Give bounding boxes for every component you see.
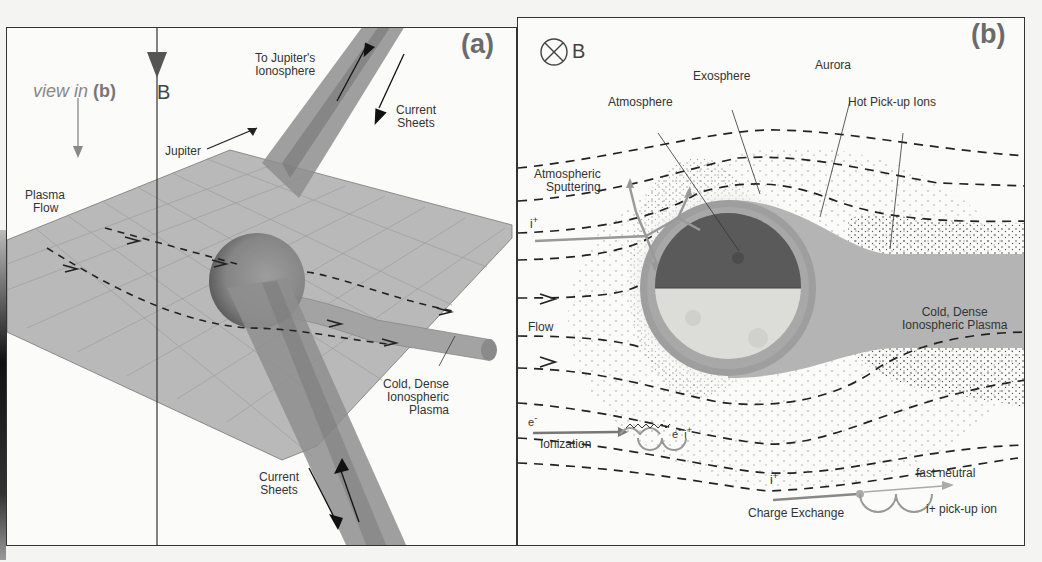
view-in-ref: (b) [93,81,116,101]
label-aurora: Aurora [815,59,851,72]
view-in-label: view in (b) [33,81,116,102]
label-to-ionosphere: To Jupiter's Ionosphere [255,52,315,78]
label-plasma-flow: Plasma Flow [25,189,65,215]
pickup-gyration [860,494,932,512]
b-field-label-b: B [572,40,585,63]
label-ionization: Ionization [540,438,591,451]
label-ionization-products: e- i+ [672,424,692,441]
label-fast-neutral: fast neutral [916,467,975,480]
label-flow: Flow [528,321,553,334]
label-cold-dense-plasma-a: Cold, Dense Ionospheric Plasma [383,378,449,417]
label-line: Ionospheric Plasma [902,319,1007,332]
ion-charge: + [533,215,538,225]
label-atmosphere: Atmosphere [608,96,673,109]
label-current-sheets-bottom: Current Sheets [259,471,299,497]
label-electron: e- [528,412,537,429]
electron-charge: - [678,425,681,435]
label-line: Flow [25,202,65,215]
label-line: Sheets [396,117,436,130]
panel-b-top-view: (b) B Exosphere Aurora Atmosphere Hot Pi… [517,17,1025,546]
panel-a-tag: (a) [461,29,494,60]
label-charge-exchange: Charge Exchange [748,507,844,520]
label-atmospheric-sputtering: Atmospheric Sputtering [534,168,601,194]
label-ion-in: i+ [530,214,538,231]
label-exosphere: Exosphere [693,70,750,83]
label-hot-pickup-ions: Hot Pick-up Ions [848,96,936,109]
label-line: Sputtering [534,181,601,194]
ion-charge: + [773,471,778,481]
electron-charge: - [534,413,537,423]
panel-a-3d-view: (a) view in (b) B To Jupiter's Ionospher… [6,27,517,546]
label-exchange-ion: i+ [770,470,778,487]
label-line: Plasma [383,404,449,417]
label-current-sheets-top: Current Sheets [396,104,436,130]
b-arrowhead [147,52,167,78]
label-line: Ionosphere [255,65,315,78]
ion-charge: + [687,425,692,435]
view-in-text: view in [33,81,88,101]
panel-a-illustration [7,28,517,546]
label-pickup-ion: i+ pick-up ion [926,503,997,516]
b-field-label: B [157,81,170,104]
label-line: Sheets [259,484,299,497]
panel-b-tag: (b) [971,19,1005,50]
label-cold-dense-plasma-b: Cold, Dense Ionospheric Plasma [902,306,1007,332]
label-jupiter: Jupiter [165,145,201,158]
